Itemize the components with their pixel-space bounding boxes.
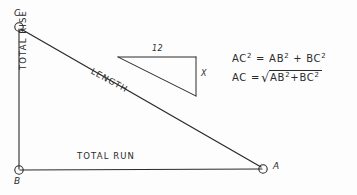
formula2-term-a: AB [270, 72, 285, 83]
formula1-term-b-exponent: 2 [321, 52, 326, 60]
radicand-group: AB2+BC2 [269, 70, 322, 83]
vertex-label-a: A [273, 161, 279, 171]
formula2-equals: = [251, 72, 260, 83]
vertex-label-b: B [14, 176, 20, 186]
formula2-lhs: AC [232, 72, 247, 83]
formula1-lhs: AC [232, 53, 247, 64]
radical-expression: √AB2+BC2 [260, 70, 322, 83]
formula1-lhs-exponent: 2 [247, 52, 252, 60]
triangle-sketch [0, 0, 357, 195]
edge-label-total-rise: TOTAL RISE [18, 10, 28, 70]
inset-hypotenuse-line [118, 57, 196, 96]
formula1-term-b: BC [306, 53, 321, 64]
formula2-term-b: BC [299, 72, 314, 83]
inset-side-label: X [201, 69, 207, 78]
inset-top-label: 12 [152, 44, 163, 53]
formula-pythagorean-root: AC =√AB2+BC2 [232, 70, 322, 83]
formula1-equals: = [256, 53, 265, 64]
edge-length-line [21, 29, 261, 167]
formula1-term-a: AB [269, 53, 284, 64]
sqrt-icon: √ [261, 71, 270, 84]
edge-total-run-line [20, 169, 262, 170]
edge-label-total-run: TOTAL RUN [77, 151, 135, 161]
formula1-term-a-exponent: 2 [284, 52, 289, 60]
formula2-term-b-exponent: 2 [314, 71, 319, 79]
formula-pythagorean-squared: AC2 = AB2 + BC2 [232, 52, 326, 64]
diagram-canvas: C B A TOTAL RISE TOTAL RUN LENGTH 12 X A… [0, 0, 357, 195]
formula1-plus: + [293, 53, 302, 64]
